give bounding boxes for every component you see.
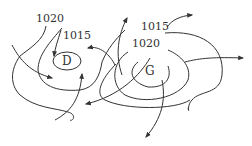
isobar-label-1015-right: 1015 <box>141 20 169 33</box>
isobar-label-1020-right: 1020 <box>132 37 160 50</box>
wind-arrows <box>12 15 243 137</box>
wind-arrow-into-d-left <box>12 45 52 78</box>
pressure-diagram: 1020 1015 1015 1020 D G <box>0 0 252 146</box>
wind-arrow-top-right <box>167 15 192 27</box>
wind-arrow-right <box>185 58 243 62</box>
wind-arrow-up-left <box>118 18 127 75</box>
isobar-1015-g-right <box>165 33 222 111</box>
wind-arrow-into-d-bottom <box>55 74 82 120</box>
high-pressure-center-label: G <box>145 64 155 78</box>
wind-arrow-down-from-g <box>146 80 163 137</box>
low-pressure-center-label: D <box>62 54 72 68</box>
isobar-label-1020-left: 1020 <box>36 12 64 25</box>
isobar-label-1015-left: 1015 <box>63 29 91 42</box>
